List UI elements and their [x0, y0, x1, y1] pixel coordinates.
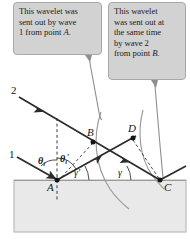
- callout-left-line-3-text: 1 from point: [19, 27, 63, 37]
- label-theta-i-prime: θi′: [60, 153, 69, 165]
- reflected-ray-from-c: [160, 166, 186, 180]
- callout-left-line-3: 1 from point A.: [19, 27, 97, 38]
- point-d-dot: [131, 136, 136, 141]
- label-point-a: A: [46, 181, 54, 193]
- callout-right-tail-nib: [151, 80, 158, 88]
- callout-right-line-2: was sent out at: [114, 17, 181, 28]
- label-point-d: D: [127, 122, 136, 134]
- callout-left: This wavelet was sent out by wave 1 from…: [13, 2, 102, 55]
- callout-right-point-label: B.: [152, 48, 159, 58]
- incident-ray-2-arrowhead-2: [120, 156, 131, 163]
- callout-right-line-4: by wave 2: [114, 38, 181, 49]
- callout-left-line-2: sent out by wave: [19, 17, 97, 28]
- label-gamma: γ: [118, 167, 123, 178]
- callout-left-point-label: A.: [63, 27, 70, 37]
- callout-right-tail: [155, 80, 164, 178]
- figure-root: 1 2 A B C D θi θi′ γ′ γ This wavelet was…: [0, 0, 190, 242]
- callout-right: This wavelet was sent out at the same ti…: [108, 2, 186, 80]
- callout-right-line-5: from point B.: [114, 48, 181, 59]
- label-point-c: C: [164, 181, 172, 193]
- label-gamma-prime: γ′: [74, 167, 81, 178]
- label-point-b: B: [87, 126, 94, 138]
- callout-right-line-5-text: from point: [114, 48, 152, 58]
- angle-arc-gamma-prime: [85, 166, 89, 180]
- callout-left-tail-nib: [85, 55, 92, 62]
- callout-left-tail: [89, 55, 102, 120]
- label-ray-1: 1: [9, 148, 15, 160]
- dashed-wavefront-dc: [133, 140, 160, 180]
- lower-medium-slab: [14, 180, 186, 232]
- angle-arc-gamma: [127, 166, 131, 180]
- callout-right-line-1: This wavelet: [114, 6, 181, 17]
- label-ray-2: 2: [11, 84, 17, 96]
- incident-ray-2-arrowhead-1: [34, 106, 45, 113]
- point-b-dot: [91, 140, 96, 145]
- callout-right-line-3: the same time: [114, 27, 181, 38]
- point-c-dot: [158, 178, 163, 183]
- point-a-dot: [55, 178, 60, 183]
- callout-left-line-1: This wavelet was: [19, 6, 97, 17]
- label-theta-i: θi: [38, 155, 45, 167]
